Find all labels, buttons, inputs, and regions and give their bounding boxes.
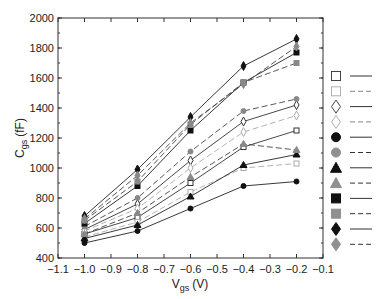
triangle-marker xyxy=(240,141,247,147)
diamond-marker xyxy=(188,164,193,173)
triangle-marker xyxy=(187,174,194,180)
legend-item xyxy=(332,194,373,203)
legend-circle-icon xyxy=(332,133,341,142)
x-tick-label: −0.5 xyxy=(206,263,228,275)
plot-area xyxy=(81,35,300,246)
x-tick-label: −0.1 xyxy=(312,263,334,275)
y-tick-label: 1800 xyxy=(30,42,54,54)
legend-diamond-icon xyxy=(332,238,341,251)
square-marker xyxy=(188,128,193,133)
diamond-marker xyxy=(241,117,246,126)
series-black-circle-solid xyxy=(82,179,299,246)
y-axis-title-sub: gs xyxy=(19,139,29,149)
legend-square-icon xyxy=(332,209,341,218)
legend xyxy=(331,72,373,251)
legend-diamond-icon xyxy=(332,223,341,236)
y-tick-label: 1600 xyxy=(30,72,54,84)
circle-marker xyxy=(135,229,140,234)
legend-item xyxy=(332,209,373,218)
series-open-square-solid xyxy=(82,128,299,237)
square-marker xyxy=(294,61,299,66)
circle-marker xyxy=(188,149,193,154)
x-axis-title-sub: gs xyxy=(180,283,190,293)
series-gray-triangle-dashed xyxy=(81,141,300,237)
y-tick-label: 400 xyxy=(36,252,54,264)
square-marker xyxy=(188,181,193,186)
x-axis-title: Vgs(V) xyxy=(172,277,209,293)
legend-item xyxy=(332,238,373,251)
y-tick-label: 1200 xyxy=(30,132,54,144)
axes: −1.1−1.0−0.9−0.8−0.7−0.6−0.5−0.4−0.3−0.2… xyxy=(30,12,334,275)
y-tick-label: 1000 xyxy=(30,162,54,174)
x-tick-label: −0.7 xyxy=(153,263,175,275)
square-marker xyxy=(294,161,299,166)
legend-diamond-icon xyxy=(332,100,341,113)
legend-item xyxy=(331,178,373,188)
legend-item xyxy=(331,162,373,172)
y-tick-label: 600 xyxy=(36,222,54,234)
diamond-marker xyxy=(241,62,246,71)
circle-marker xyxy=(294,179,299,184)
chart: −1.1−1.0−0.9−0.8−0.7−0.6−0.5−0.4−0.3−0.2… xyxy=(0,0,385,299)
legend-item xyxy=(332,133,373,142)
circle-marker xyxy=(135,196,140,201)
legend-triangle-icon xyxy=(331,162,342,172)
x-tick-label: −0.8 xyxy=(127,263,149,275)
square-marker xyxy=(294,128,299,133)
legend-item xyxy=(332,115,373,128)
legend-item xyxy=(332,148,373,157)
diamond-marker xyxy=(241,128,246,137)
y-tick-label: 1400 xyxy=(30,102,54,114)
x-tick-label: −0.2 xyxy=(286,263,308,275)
x-tick-label: −0.3 xyxy=(259,263,281,275)
plot-frame xyxy=(58,18,323,258)
legend-square-icon xyxy=(332,87,341,96)
x-tick-label: −0.6 xyxy=(180,263,202,275)
y-axis-title-unit: (fF) xyxy=(13,118,27,137)
y-axis-title-main: C xyxy=(13,149,27,158)
y-tick-label: 2000 xyxy=(30,12,54,24)
legend-diamond-icon xyxy=(332,115,341,128)
legend-square-icon xyxy=(332,72,341,81)
legend-item xyxy=(332,223,373,236)
x-tick-label: −1.1 xyxy=(47,263,69,275)
legend-item xyxy=(332,100,373,113)
circle-marker xyxy=(241,109,246,114)
circle-marker xyxy=(294,97,299,102)
diamond-marker xyxy=(294,111,299,120)
x-axis-title-unit: (V) xyxy=(192,277,208,291)
legend-item xyxy=(332,72,373,81)
circle-marker xyxy=(188,206,193,211)
x-tick-label: −0.4 xyxy=(233,263,255,275)
triangle-marker xyxy=(134,210,141,216)
y-tick-label: 800 xyxy=(36,192,54,204)
y-axis-title: Cgs(fF) xyxy=(13,118,29,158)
legend-square-icon xyxy=(332,194,341,203)
x-axis-title-main: V xyxy=(172,277,180,291)
legend-item xyxy=(332,87,373,96)
circle-marker xyxy=(241,184,246,189)
series-black-square-solid xyxy=(82,50,299,226)
legend-triangle-icon xyxy=(331,178,342,188)
x-tick-label: −1.0 xyxy=(74,263,96,275)
x-tick-label: −0.9 xyxy=(100,263,122,275)
legend-circle-icon xyxy=(332,148,341,157)
